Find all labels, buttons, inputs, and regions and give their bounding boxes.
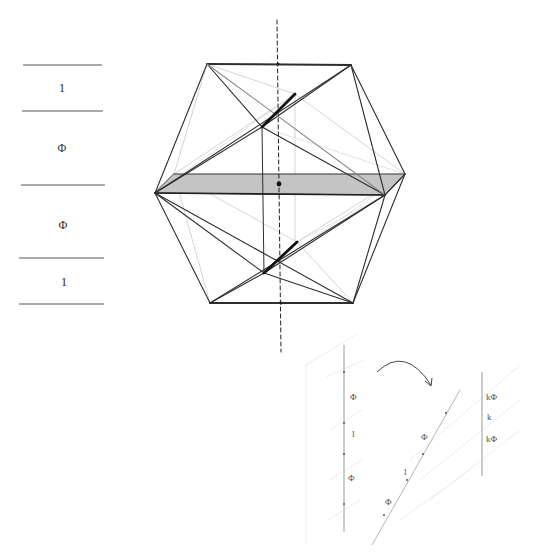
proportion-scale: 1 Φ Φ 1 — [19, 65, 105, 304]
right-label: k — [487, 412, 492, 422]
diagonal-label: Φ — [385, 497, 392, 507]
diagonal-ticks — [383, 412, 447, 516]
right-label: kΦ — [486, 434, 498, 444]
right-label: kΦ — [486, 392, 498, 402]
projection-sketch: Φ 1 Φ Φ 1 Φ kΦ k kΦ — [306, 334, 520, 545]
scale-label: Φ — [58, 141, 67, 155]
vertical-label: Φ — [350, 392, 357, 402]
highlight-edge-lower — [264, 242, 297, 273]
axis-point-bottom — [279, 301, 282, 304]
diagonal-label: 1 — [403, 467, 408, 477]
center-dot — [277, 182, 282, 187]
diagonal-label: Φ — [421, 432, 428, 442]
icosahedron — [155, 20, 405, 352]
diagram-canvas: 1 Φ Φ 1 — [0, 0, 534, 555]
scale-label: 1 — [59, 80, 66, 95]
vertical-label: Φ — [348, 473, 355, 483]
axis-point-top — [276, 62, 279, 65]
rotation-arrow-icon — [377, 361, 431, 385]
scale-label: 1 — [61, 274, 68, 289]
vertical-label: 1 — [351, 429, 356, 439]
scale-label: Φ — [59, 218, 68, 232]
